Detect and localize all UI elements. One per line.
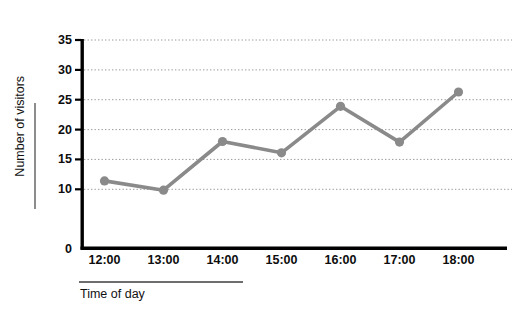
x-tick-1600: 16:00 — [325, 254, 357, 267]
data-point — [218, 137, 227, 146]
x-tick-1300: 13:00 — [148, 254, 180, 267]
data-point — [454, 87, 463, 96]
data-point — [277, 148, 286, 157]
data-series-line — [105, 92, 459, 190]
data-point — [159, 186, 168, 195]
x-axis-title: Time of day — [80, 288, 145, 301]
x-tick-1400: 14:00 — [207, 254, 239, 267]
y-axis-ticks — [75, 40, 81, 189]
data-point — [336, 102, 345, 111]
x-axis-title-rule — [79, 281, 243, 283]
gridlines — [84, 40, 512, 189]
line-chart-figure: Number of visitors — [0, 0, 531, 313]
x-tick-1800: 18:00 — [443, 254, 475, 267]
x-tick-1500: 15:00 — [266, 254, 298, 267]
data-point — [395, 138, 404, 147]
x-tick-1200: 12:00 — [89, 254, 121, 267]
data-point-markers — [100, 87, 463, 194]
x-tick-1700: 17:00 — [384, 254, 416, 267]
data-point — [100, 176, 109, 185]
